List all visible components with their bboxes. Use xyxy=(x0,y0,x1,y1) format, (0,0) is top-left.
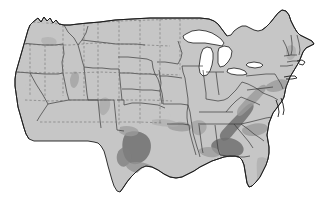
us-map-svg xyxy=(0,0,326,212)
us-map-figure: Grayscale outline map of the contiguous … xyxy=(0,0,326,212)
us-landmass-fill xyxy=(15,10,314,192)
landmass-group xyxy=(15,10,314,192)
lake-ontario xyxy=(246,62,263,68)
